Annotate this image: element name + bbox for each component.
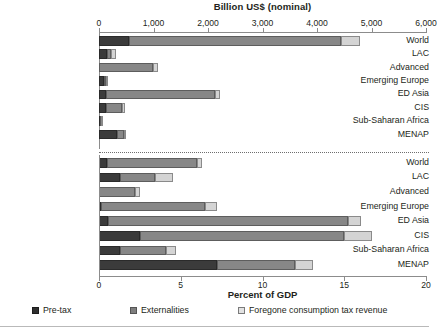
legend-item-pre-tax: Pre-tax [32, 305, 71, 315]
bar-segment-pre-tax [99, 49, 107, 59]
bar-segment-pre-tax [99, 246, 120, 256]
bar-segment-pre-tax [99, 130, 117, 140]
axis-tick-mark [426, 28, 427, 32]
legend-label-pre-tax: Pre-tax [43, 305, 71, 315]
bar-segment-pre-tax [99, 173, 120, 183]
bar-segment-foregone-consumption-tax-revenue [205, 202, 216, 212]
legend-swatch-foregone-icon [238, 307, 245, 314]
bar-segment-foregone-consumption-tax-revenue [111, 49, 116, 59]
bar-segment-pre-tax [99, 158, 107, 168]
stacked-bar [99, 76, 426, 86]
bar-segment-externalities [108, 216, 348, 226]
axis-tick-mark [154, 28, 155, 32]
bar-segment-externalities [107, 158, 197, 168]
axis-tick-mark [317, 28, 318, 32]
top-axis-title: Billion US$ (nominal) [99, 1, 426, 12]
axis-tick-mark [208, 28, 209, 32]
bar-segment-externalities [99, 63, 153, 73]
stacked-bar [99, 49, 426, 59]
bar-segment-externalities [106, 90, 214, 100]
bar-segment-externalities [120, 173, 154, 183]
bar-segment-externalities [106, 103, 122, 113]
bar-segment-externalities [129, 36, 341, 46]
bar-segment-pre-tax [99, 260, 217, 270]
stacked-bar [99, 246, 426, 256]
axis-tick-mark [263, 28, 264, 32]
stacked-bar [99, 187, 426, 197]
bar-segment-pre-tax [99, 103, 106, 113]
axis-tick-label: 2,000 [197, 18, 219, 28]
bar-segment-foregone-consumption-tax-revenue [215, 90, 220, 100]
bar-segment-foregone-consumption-tax-revenue [348, 216, 361, 226]
legend-swatch-externalities-icon [130, 307, 137, 314]
stacked-bar [99, 231, 426, 241]
bar-segment-foregone-consumption-tax-revenue [101, 116, 103, 126]
axis-tick-label: 3,000 [252, 18, 274, 28]
axis-tick-label: 1,000 [143, 18, 165, 28]
stacked-bar [99, 116, 426, 126]
stacked-bar [99, 173, 426, 183]
bar-segment-externalities [99, 187, 135, 197]
stacked-bar [99, 216, 426, 226]
legend-item-externalities: Externalities [130, 305, 189, 315]
stacked-bar [99, 103, 426, 113]
figure-bottom-rule [0, 326, 429, 327]
axis-tick-label: 5,000 [361, 18, 383, 28]
bar-segment-foregone-consumption-tax-revenue [295, 260, 313, 270]
bar-segment-externalities [117, 130, 124, 140]
bar-segment-foregone-consumption-tax-revenue [153, 63, 158, 73]
stacked-bar [99, 130, 426, 140]
bar-segment-foregone-consumption-tax-revenue [122, 103, 125, 113]
bar-segment-externalities [101, 202, 206, 212]
stacked-bar [99, 90, 426, 100]
bar-segment-externalities [120, 246, 166, 256]
axis-tick-label: 4,000 [306, 18, 328, 28]
legend-label-externalities: Externalities [141, 305, 189, 315]
stacked-bar [99, 158, 426, 168]
bar-segment-foregone-consumption-tax-revenue [106, 76, 108, 86]
bar-segment-foregone-consumption-tax-revenue [155, 173, 173, 183]
bar-segment-foregone-consumption-tax-revenue [135, 187, 140, 197]
bottom-axis-title: Percent of GDP [99, 289, 426, 300]
legend-item-foregone: Foregone consumption tax revenue [238, 305, 387, 315]
bottom-category-axis-line [99, 155, 100, 276]
bar-segment-pre-tax [99, 36, 129, 46]
bar-segment-pre-tax [99, 90, 106, 100]
axis-tick-mark [372, 28, 373, 32]
axis-tick-label: 6,000 [415, 18, 437, 28]
panel-divider-dotted-line [99, 152, 429, 153]
bar-segment-foregone-consumption-tax-revenue [197, 158, 202, 168]
bar-segment-externalities [217, 260, 295, 270]
stacked-bar [99, 63, 426, 73]
bar-segment-foregone-consumption-tax-revenue [344, 231, 372, 241]
top-axis-line [99, 32, 427, 33]
chart-legend: Pre-tax Externalities Foregone consumpti… [0, 305, 429, 321]
legend-label-foregone: Foregone consumption tax revenue [249, 305, 387, 315]
bar-segment-foregone-consumption-tax-revenue [124, 130, 126, 140]
axis-tick-label: 0 [97, 18, 102, 28]
bar-segment-foregone-consumption-tax-revenue [166, 246, 176, 256]
stacked-bar [99, 260, 426, 270]
bar-segment-pre-tax [99, 231, 140, 241]
legend-swatch-pre-tax-icon [32, 307, 39, 314]
stacked-bar [99, 202, 426, 212]
stacked-bar [99, 36, 426, 46]
bar-segment-pre-tax [99, 216, 108, 226]
bar-segment-externalities [140, 231, 344, 241]
bar-segment-foregone-consumption-tax-revenue [341, 36, 360, 46]
